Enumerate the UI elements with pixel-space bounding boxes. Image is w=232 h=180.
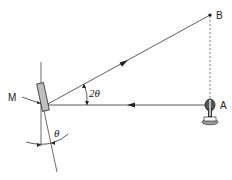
label-M: M: [8, 92, 16, 103]
theta-arrow-right: [51, 141, 55, 145]
label-theta: θ: [54, 127, 60, 139]
incident-ray-arrow: [127, 103, 135, 108]
diagram-canvas: B M 2θ θ A: [0, 0, 232, 180]
label-A: A: [220, 100, 227, 111]
mirror: [37, 83, 50, 112]
lamp-icon: [202, 99, 218, 125]
label-B: B: [216, 10, 223, 21]
theta-arrow-left: [37, 143, 41, 147]
reflected-ray-arrow: [120, 60, 129, 67]
theta-arc: [26, 134, 68, 144]
point-B: [208, 13, 211, 16]
two-theta-arrow-bottom: [85, 101, 89, 105]
mirror-pointer: [22, 97, 39, 103]
label-two-theta: 2θ: [89, 87, 101, 99]
